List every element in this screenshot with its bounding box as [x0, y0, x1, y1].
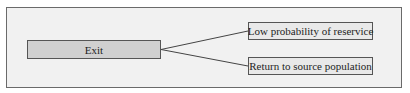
node-return-to-source-label: Return to source population [249, 60, 372, 72]
node-return-to-source-population: Return to source population [248, 57, 373, 75]
node-low-probability-label: Low probability of reservice [248, 25, 374, 37]
node-low-probability-of-reservice: Low probability of reservice [248, 22, 373, 40]
node-exit-label: Exit [85, 44, 103, 56]
node-exit: Exit [27, 40, 161, 59]
edge-exit-to-low-probability [161, 31, 248, 50]
edge-exit-to-return [161, 50, 248, 67]
